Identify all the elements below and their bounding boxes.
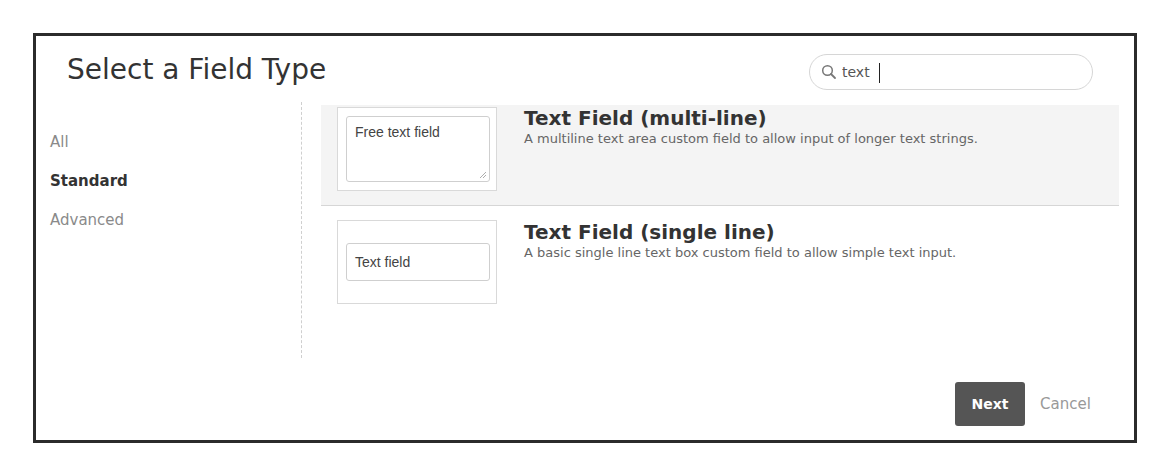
next-button[interactable]: Next [955, 382, 1025, 426]
dialog-title: Select a Field Type [67, 53, 326, 86]
textarea-preview: Free text field [346, 116, 490, 182]
resize-grip-icon [479, 171, 486, 178]
select-field-type-dialog: Select a Field Type All Standard Advance… [33, 33, 1137, 443]
text-cursor [879, 63, 880, 83]
field-preview: Text field [337, 220, 497, 304]
field-type-name: Text Field (multi-line) [524, 106, 978, 130]
field-type-description: A multiline text area custom field to al… [524, 130, 978, 147]
sidebar-item-all[interactable]: All [50, 132, 128, 171]
field-type-option-single-line[interactable]: Text field Text Field (single line) A ba… [321, 207, 1119, 307]
search-icon [821, 64, 837, 80]
sidebar-item-advanced[interactable]: Advanced [50, 210, 128, 249]
sidebar-divider [301, 102, 302, 358]
field-type-description: A basic single line text box custom fiel… [524, 244, 956, 261]
field-type-option-multiline[interactable]: Free text field Text Field (multi-line) … [321, 105, 1119, 206]
field-preview: Free text field [337, 107, 497, 191]
field-type-name: Text Field (single line) [524, 220, 956, 244]
field-type-info: Text Field (single line) A basic single … [524, 220, 956, 261]
category-sidebar: All Standard Advanced [50, 132, 128, 249]
field-type-info: Text Field (multi-line) A multiline text… [524, 106, 978, 147]
textfield-preview: Text field [346, 243, 490, 281]
search-box[interactable] [809, 54, 1093, 90]
sidebar-item-standard[interactable]: Standard [50, 171, 128, 210]
search-input[interactable] [842, 61, 1072, 83]
preview-text: Free text field [355, 124, 440, 140]
cancel-button[interactable]: Cancel [1036, 382, 1095, 426]
